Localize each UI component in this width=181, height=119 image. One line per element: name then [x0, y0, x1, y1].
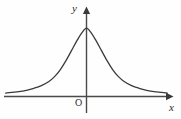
y-axis-label: y: [72, 3, 77, 14]
plot-background: [0, 0, 181, 119]
bell-curve-figure: y x O: [0, 0, 181, 119]
origin-label: O: [75, 98, 82, 108]
x-axis-label: x: [169, 102, 174, 113]
plot-canvas: [0, 0, 181, 119]
